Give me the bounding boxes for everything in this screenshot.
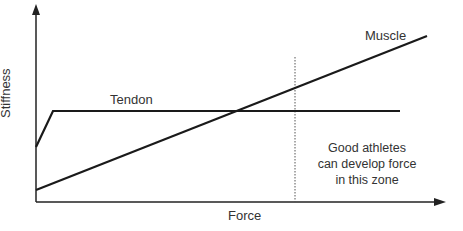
zone-annotation-line-1: Good athletes [303, 140, 431, 156]
y-axis-label: Stiffness [0, 68, 13, 118]
zone-annotation-line-2: can develop force [303, 156, 431, 172]
x-axis-label: Force [228, 208, 261, 223]
zone-annotation: Good athletes can develop force in this … [303, 140, 431, 188]
zone-annotation-line-3: in this zone [303, 172, 431, 188]
muscle-label: Muscle [365, 28, 406, 43]
x-axis-arrow-icon [434, 198, 446, 206]
tendon-label: Tendon [110, 92, 153, 107]
stiffness-force-diagram: Stiffness Force Tendon Muscle Good athle… [0, 0, 463, 231]
y-axis-arrow-icon [32, 4, 40, 15]
